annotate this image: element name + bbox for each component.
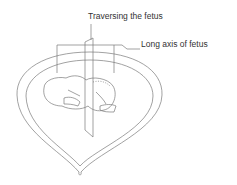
fetus-plane-diagram: Traversing the fetus Long axis of fetus (0, 0, 237, 185)
long-axis-plane (57, 45, 122, 73)
traverse-plane (85, 38, 93, 137)
fetus-arm (64, 97, 80, 106)
fetus-dotted-back (93, 81, 110, 86)
long-axis-leader (122, 45, 140, 49)
traversing-label: Traversing the fetus (88, 11, 163, 21)
diagram-drawing (0, 0, 237, 185)
uterus-outer-wall (17, 52, 162, 172)
uterus-inner-wall (26, 60, 153, 166)
cervix (79, 172, 81, 175)
fetus-body (44, 76, 115, 111)
long-axis-label: Long axis of fetus (141, 39, 208, 49)
fetus-detail-a (68, 90, 80, 96)
fetus-detail-b (96, 92, 106, 104)
